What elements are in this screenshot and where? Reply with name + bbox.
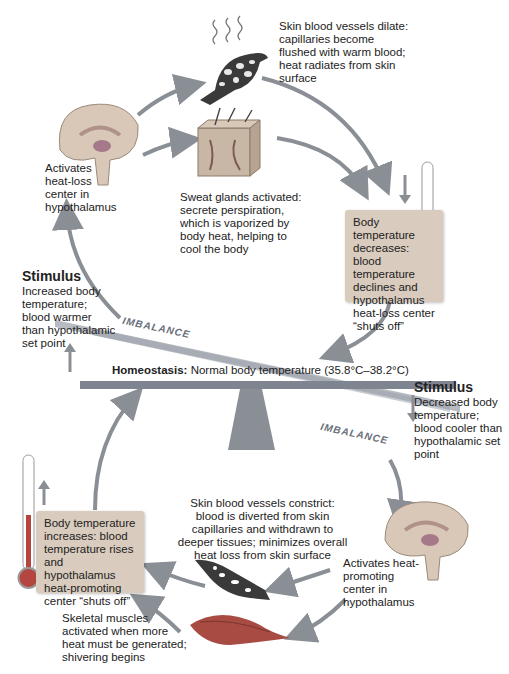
heat-loss-center-text: Activates heat-loss center in hypothalam… — [45, 162, 105, 214]
arrow-brain-to-skin — [143, 140, 190, 155]
body-temp-increases-box: Body temperature increases: blood temper… — [36, 511, 144, 593]
heat-waves-icon — [213, 16, 242, 44]
stimulus-decrease-title: Stimulus — [414, 380, 473, 395]
sweat-glands-text: Sweat glands activated: secrete perspira… — [180, 191, 310, 256]
heat-promoting-center-text: Activates heat-promoting center in hypot… — [343, 557, 428, 609]
vessels-constrict-text: Skin blood vessels constrict: blood is d… — [175, 497, 350, 562]
arrow-brain-to-muscle-lower — [295, 600, 345, 635]
skeletal-muscle-icon — [190, 615, 290, 645]
arrow-brain-to-vessels — [138, 85, 195, 115]
arrow-vessels-to-box-lower — [152, 568, 205, 586]
homeostasis-label: Homeostasis: Normal body temperature (35… — [112, 364, 412, 377]
skin-sweat-gland-icon — [198, 108, 260, 176]
stimulus-increase-text: Increased body temperature; blood warmer… — [22, 285, 117, 350]
dilated-vessels-icon — [200, 53, 268, 105]
homeostasis-title: Homeostasis: — [112, 364, 187, 376]
body-temp-decreases-box: Body temperature decreases: blood temper… — [345, 210, 443, 302]
skeletal-muscles-text: Skeletal muscles activated when more hea… — [62, 612, 187, 664]
homeostasis-range: Normal body temperature (35.8°C–38.2°C) — [191, 364, 409, 376]
thermoregulation-diagram: Skin blood vessels dilate: capillaries b… — [0, 0, 509, 674]
stimulus-increase-title: Stimulus — [22, 269, 81, 284]
stimulus-decrease-text: Decreased body temperature; blood cooler… — [414, 396, 506, 461]
constricted-vessels-icon — [195, 560, 270, 600]
arrow-skin-to-box — [277, 138, 363, 190]
arrow-brain-to-vessels-lower — [275, 570, 330, 588]
vessels-dilate-text: Skin blood vessels dilate: capillaries b… — [279, 20, 409, 85]
arrow-vessels-to-box — [262, 78, 385, 185]
arrow-box-to-homeostasis-lower — [95, 396, 135, 510]
